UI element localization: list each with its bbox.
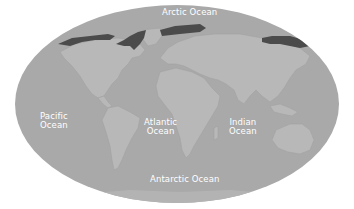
label-atlantic-ocean: Atlantic Ocean [144, 118, 177, 136]
label-indian-ocean: Indian Ocean [229, 118, 257, 136]
madagascar [214, 126, 218, 140]
label-arctic-line1: Arctic Ocean [162, 8, 217, 17]
new-zealand [320, 148, 326, 160]
label-indian-line2: Ocean [229, 127, 257, 136]
label-antarctic-ocean: Antarctic Ocean [150, 175, 219, 184]
continent-antarctica [15, 190, 339, 209]
label-pacific-line2: Ocean [40, 121, 68, 130]
label-arctic-ocean: Arctic Ocean [162, 8, 217, 17]
label-antarctic-line1: Antarctic Ocean [150, 175, 219, 184]
label-pacific-ocean: Pacific Ocean [40, 112, 68, 130]
label-atlantic-line2: Ocean [144, 127, 177, 136]
